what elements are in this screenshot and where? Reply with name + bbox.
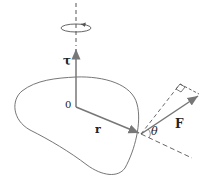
- origin-label: 0: [65, 100, 71, 110]
- angle-label: θ: [151, 126, 158, 137]
- torque-diagram: τ 0 r F θ: [0, 0, 217, 185]
- force-vector: [141, 96, 198, 134]
- position-vector: [76, 107, 139, 133]
- force-label: F: [175, 118, 184, 130]
- r-extension-line: [141, 134, 192, 158]
- angle-arc: [148, 129, 150, 138]
- position-label: r: [95, 124, 101, 135]
- torque-label: τ: [63, 55, 71, 67]
- diagram-canvas: [0, 0, 217, 185]
- rotation-arrow-icon: [81, 24, 86, 25]
